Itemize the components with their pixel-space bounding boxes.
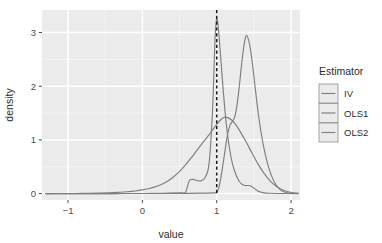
legend-item-label: OLS1 xyxy=(344,108,368,119)
x-tick-label: 2 xyxy=(288,205,293,216)
y-tick-label: 3 xyxy=(31,27,36,38)
x-tick-label: 1 xyxy=(214,205,219,216)
x-tick-label: 0 xyxy=(140,205,145,216)
panel-background xyxy=(42,10,300,200)
y-axis-title: density xyxy=(3,88,15,122)
legend-title: Estimator xyxy=(319,65,364,77)
density-plot-figure: −10120123 value density Estimator IVOLS1… xyxy=(0,0,382,243)
x-tick-label: −1 xyxy=(63,205,74,216)
plot-canvas: −10120123 value density Estimator IVOLS1… xyxy=(0,0,382,243)
y-tick-label: 0 xyxy=(31,188,36,199)
y-tick-label: 2 xyxy=(31,81,36,92)
y-tick-label: 1 xyxy=(31,134,36,145)
legend-item-label: IV xyxy=(344,88,354,99)
x-axis-title: value xyxy=(158,228,183,240)
legend-item-label: OLS2 xyxy=(344,127,368,138)
